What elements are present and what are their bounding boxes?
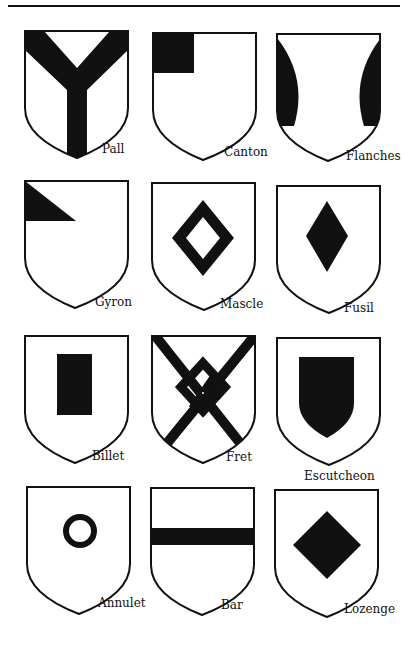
fusil-shield-icon xyxy=(274,183,404,333)
escutcheon-shield-icon xyxy=(274,335,404,485)
shield-canton: Canton xyxy=(150,30,280,180)
pall-shield-icon xyxy=(22,28,152,178)
charge-label: Escutcheon xyxy=(304,469,375,483)
charge-label: Annulet xyxy=(98,596,146,610)
shield-fusil: Fusil xyxy=(274,183,404,333)
shield-escutcheon: Escutcheon xyxy=(274,335,404,485)
shield-mascle: Mascle xyxy=(149,180,279,330)
charge-label: Gyron xyxy=(95,295,132,309)
header-rule xyxy=(8,5,400,7)
charge-label: Fret xyxy=(226,450,252,464)
shield-gyron: Gyron xyxy=(22,178,152,328)
annulet-shield-icon xyxy=(24,484,154,634)
bar-shield-icon xyxy=(148,485,278,635)
gyron-shield-icon xyxy=(22,178,152,328)
charge-label: Mascle xyxy=(220,297,263,311)
shield-fret: Fret xyxy=(149,333,279,483)
charge-label: Fusil xyxy=(344,301,374,315)
shield-flanches: Flanches xyxy=(274,31,404,181)
charge-label: Bar xyxy=(221,598,243,612)
shield-lozenge: Lozenge xyxy=(272,487,402,637)
charge-label: Flanches xyxy=(346,149,401,163)
charge-label: Lozenge xyxy=(344,602,395,616)
shield-billet: Billet xyxy=(22,333,152,483)
shield-pall: Pall xyxy=(22,28,152,178)
fret-shield-icon xyxy=(149,333,279,483)
shield-annulet: Annulet xyxy=(24,484,154,634)
charge-label: Canton xyxy=(224,145,268,159)
charge-label: Pall xyxy=(102,142,124,156)
shield-bar: Bar xyxy=(148,485,278,635)
billet-shield-icon xyxy=(22,333,152,483)
charge-label: Billet xyxy=(92,449,124,463)
